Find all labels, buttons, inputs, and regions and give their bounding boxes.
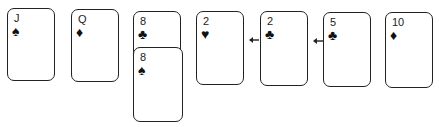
card-two-clubs[interactable]: 2 ♣ bbox=[260, 11, 308, 86]
spade-icon: ♠ bbox=[12, 24, 19, 38]
diamond-icon: ♦ bbox=[390, 28, 397, 42]
card-queen-diamonds[interactable]: Q ♦ bbox=[71, 9, 119, 82]
spade-icon: ♠ bbox=[138, 63, 145, 77]
club-icon: ♣ bbox=[265, 27, 274, 41]
diamond-icon: ♦ bbox=[76, 25, 83, 39]
card-five-clubs[interactable]: 5 ♣ bbox=[323, 12, 371, 87]
arrow-left-icon bbox=[313, 37, 323, 45]
card-jack-spades[interactable]: J ♠ bbox=[7, 8, 55, 81]
card-two-hearts[interactable]: 2 ♥ bbox=[196, 11, 244, 85]
heart-icon: ♥ bbox=[201, 27, 209, 41]
club-icon: ♣ bbox=[328, 28, 337, 42]
arrow-left-icon bbox=[249, 36, 259, 44]
card-eight-spades[interactable]: 8 ♠ bbox=[133, 47, 183, 122]
club-icon: ♣ bbox=[138, 27, 147, 41]
card-ten-diamonds[interactable]: 10 ♦ bbox=[385, 12, 433, 88]
